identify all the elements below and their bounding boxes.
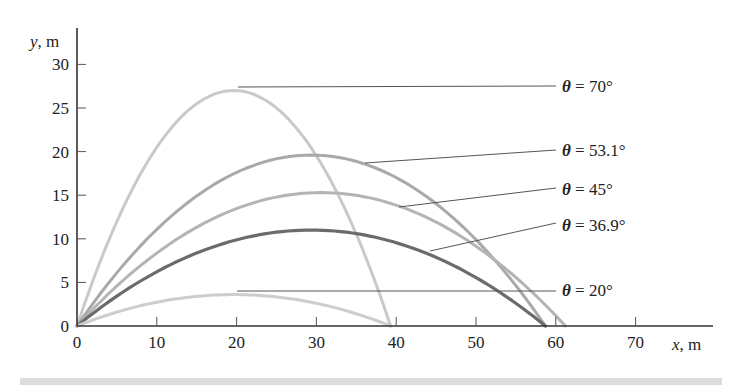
leader-line	[365, 150, 556, 163]
x-tick-label: 70	[627, 333, 644, 352]
x-tick-label: 0	[73, 333, 82, 352]
bottom-divider-bar	[20, 378, 722, 385]
series-labels: θ = 70°θ = 53.1°θ = 45°θ = 36.9°θ = 20°	[562, 77, 625, 300]
projectile-trajectory-chart: 010203040506070 051015202530 y, m x, m θ…	[0, 0, 746, 386]
series-label: θ = 45°	[562, 180, 613, 199]
y-axis-label-unit: , m	[38, 32, 60, 51]
x-tick-label: 50	[468, 333, 485, 352]
y-axis-label: y, m	[28, 32, 59, 51]
leader-line	[399, 188, 556, 207]
y-tick-label: 30	[52, 55, 69, 74]
series-label: θ = 20°	[562, 281, 613, 300]
series-label: θ = 36.9°	[562, 216, 625, 235]
x-tick-label: 40	[388, 333, 405, 352]
y-tick-label: 5	[61, 273, 70, 292]
x-tick-label: 60	[547, 333, 564, 352]
x-axis-ticks: 010203040506070	[73, 317, 644, 352]
leader-line	[238, 86, 556, 87]
series-label: θ = 53.1°	[562, 141, 625, 160]
trajectory-45-deg	[77, 193, 565, 326]
x-tick-label: 30	[308, 333, 325, 352]
y-tick-label: 20	[52, 143, 69, 162]
trajectory-20-deg	[77, 295, 391, 326]
x-tick-label: 20	[228, 333, 245, 352]
y-tick-label: 25	[52, 99, 69, 118]
x-tick-label: 10	[148, 333, 165, 352]
x-axis-label-unit: , m	[680, 335, 702, 354]
x-axis-label: x, m	[671, 335, 701, 354]
leader-line	[430, 223, 556, 251]
y-axis-ticks: 051015202530	[52, 55, 86, 336]
y-tick-label: 10	[52, 230, 69, 249]
y-tick-label: 0	[61, 317, 70, 336]
y-axis-label-var: y	[28, 32, 38, 51]
y-tick-label: 15	[52, 186, 69, 205]
series-label: θ = 70°	[562, 77, 613, 96]
